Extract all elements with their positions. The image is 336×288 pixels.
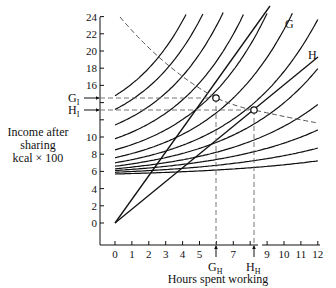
- x-tick-label: 5: [197, 248, 203, 260]
- x-tick-label: 4: [180, 248, 186, 260]
- y-tick-label: 10: [86, 131, 98, 143]
- y-tick-label: 6: [92, 165, 98, 177]
- indifference-curve: [115, 15, 243, 139]
- label-line-G: G: [285, 17, 294, 31]
- x-tick-label: 11: [296, 248, 307, 260]
- y-tick-label: 4: [92, 183, 98, 195]
- label-line-H: H: [308, 48, 317, 62]
- optimum-locus-dashed: [120, 17, 318, 123]
- x-tick-label: 2: [146, 248, 152, 260]
- y-tick-label: 18: [86, 62, 98, 74]
- x-tick-label: 7: [231, 248, 237, 260]
- optimum-point-G: [213, 95, 219, 101]
- y-ticks: 02468101618202224: [86, 11, 104, 229]
- y-axis-label-line1: Income after: [8, 125, 69, 139]
- y-axis-label-line3: kcal × 100: [13, 151, 64, 165]
- y-tick-label: 22: [86, 28, 97, 40]
- y-axis-label-line2: sharing: [20, 138, 55, 152]
- x-ticks: 01234579101112: [112, 241, 323, 260]
- y-tick-label: 2: [92, 200, 98, 212]
- optimum-point-H: [251, 107, 257, 113]
- x-tick-label: 9: [264, 248, 270, 260]
- y-tick-label: 16: [86, 79, 98, 91]
- x-tick-label: 12: [312, 248, 323, 260]
- x-tick-label: 3: [163, 248, 169, 260]
- chart: 02468101618202224 01234579101112 GI HI G…: [0, 0, 336, 288]
- x-axis-label: Hours spent working: [168, 272, 269, 286]
- y-tick-label: 24: [86, 11, 98, 23]
- x-tick-label: 1: [129, 248, 135, 260]
- y-tick-label: 0: [92, 217, 98, 229]
- y-tick-label: 8: [92, 148, 98, 160]
- indifference-curve: [115, 14, 203, 110]
- x-tick-label: 0: [112, 248, 118, 260]
- x-tick-label: 10: [279, 248, 291, 260]
- y-tick-label: 20: [86, 45, 98, 57]
